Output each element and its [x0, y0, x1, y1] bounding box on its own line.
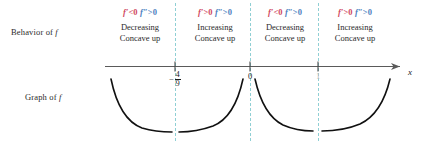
curve-segment-region-3 [255, 79, 313, 131]
curve-segment-region-4 [322, 79, 390, 131]
curve-segment-region-2 [179, 79, 243, 132]
calculus-sign-chart-figure: Behavior of f Graph of f f′<0 f″>0 f′>0 … [0, 0, 427, 146]
graph-of-f-curve [0, 0, 427, 146]
curve-segment-region-1 [111, 79, 172, 132]
